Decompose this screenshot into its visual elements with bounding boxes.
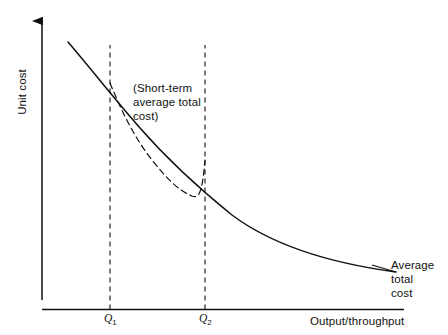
x-tick-label-q2: Q2 (199, 312, 212, 327)
figure-container: Unit cost Output/throughput (Short-term … (0, 0, 448, 335)
x-tick-q2-subscript: 2 (207, 318, 211, 327)
curve-average-total-cost (68, 42, 396, 272)
y-axis-title: Unit cost (15, 47, 29, 137)
x-tick-q1-subscript: 1 (112, 318, 116, 327)
series-label-average-total-cost: Average total cost (391, 258, 434, 300)
x-tick-label-q1: Q1 (104, 312, 117, 327)
x-axis-title: Output/throughput (310, 314, 404, 328)
chart-canvas (0, 0, 448, 335)
annotation-short-term-average-total-cost: (Short-term average total cost) (133, 81, 201, 123)
